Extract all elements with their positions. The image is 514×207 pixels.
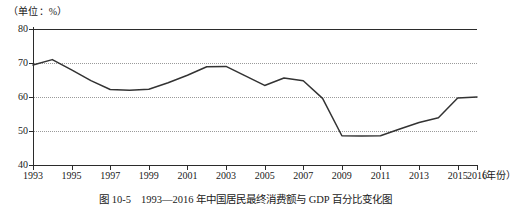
x-tick-label-1997: 1997 bbox=[100, 171, 120, 181]
y-tick-label-60: 60 bbox=[18, 92, 28, 102]
series-line-consumption bbox=[33, 60, 477, 137]
x-tick-label-2011: 2011 bbox=[371, 171, 391, 181]
x-tick-label-1999: 1999 bbox=[139, 171, 159, 181]
y-tick-label-50: 50 bbox=[18, 126, 28, 136]
line-series-chart bbox=[33, 29, 477, 165]
y-tick-label-70: 70 bbox=[18, 58, 28, 68]
x-tick-label-2003: 2003 bbox=[216, 171, 236, 181]
x-tick-label-2001: 2001 bbox=[177, 171, 197, 181]
x-tick-label-1995: 1995 bbox=[62, 171, 82, 181]
x-axis-line bbox=[33, 165, 477, 166]
x-tick-label-2015: 2015 bbox=[448, 171, 468, 181]
plot-area: 4050607080 19931995199719992001200320052… bbox=[33, 29, 477, 165]
x-tick-label-1993: 1993 bbox=[23, 171, 43, 181]
y-tick-label-40: 40 bbox=[18, 160, 28, 170]
x-tick-label-2007: 2007 bbox=[293, 171, 313, 181]
x-tick-label-2013: 2013 bbox=[409, 171, 429, 181]
x-axis-unit-label: （年份） bbox=[476, 171, 514, 181]
y-axis-unit-label: （单位：%） bbox=[8, 3, 68, 18]
x-tick-label-2009: 2009 bbox=[332, 171, 352, 181]
x-tick-label-2005: 2005 bbox=[255, 171, 275, 181]
figure-caption: 图 10-5 1993—2016 年中国居民最终消费额与 GDP 百分比变化图 bbox=[0, 193, 491, 206]
y-tick-label-80: 80 bbox=[18, 24, 28, 34]
